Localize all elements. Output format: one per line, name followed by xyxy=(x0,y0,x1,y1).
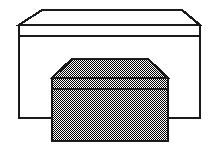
front-box-body xyxy=(52,78,168,141)
back-box-lid-top xyxy=(19,10,200,25)
figure-canvas xyxy=(0,0,218,156)
two-boxes-drawing xyxy=(0,0,218,156)
front-box-lid-top xyxy=(52,59,168,78)
front-box xyxy=(52,59,168,141)
